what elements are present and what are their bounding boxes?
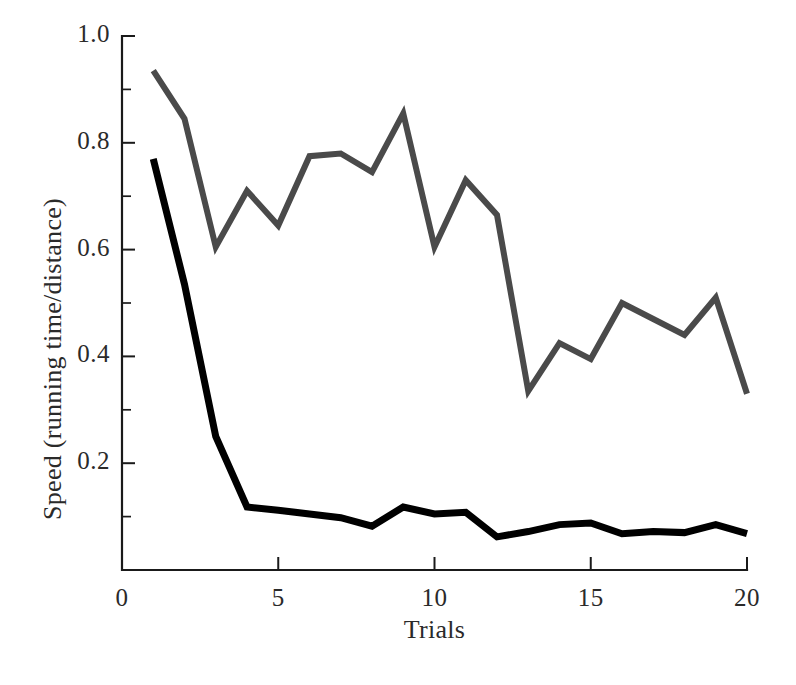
chart-figure: 0.20.40.60.81.0 05101520 Speed (running … (0, 0, 796, 685)
x-tick-label: 0 (92, 584, 152, 612)
x-tick-label: 20 (717, 584, 777, 612)
y-tick-label: 0.6 (77, 234, 110, 262)
data-series-group (153, 71, 747, 537)
chart-plot-area (0, 0, 796, 685)
y-tick-label: 0.4 (77, 340, 110, 368)
x-tick-label: 15 (561, 584, 621, 612)
y-tick-label: 0.8 (77, 127, 110, 155)
y-tick-label: 1.0 (77, 20, 110, 48)
axes-group (122, 36, 747, 570)
y-tick-label: 0.2 (77, 447, 110, 475)
series-upper-gray-series (153, 71, 747, 394)
x-tick-label: 10 (405, 584, 465, 612)
y-axis-ticks (122, 36, 135, 517)
x-axis-ticks (122, 557, 747, 570)
axis-lines (122, 36, 747, 570)
x-tick-label: 5 (248, 584, 308, 612)
x-axis-title: Trials (0, 615, 796, 645)
y-axis-title: Speed (running time/distance) (38, 198, 68, 520)
